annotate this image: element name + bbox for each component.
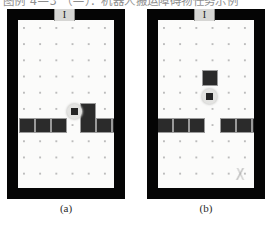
arena-wall-b: I bbox=[147, 9, 265, 199]
caption-b: (b) bbox=[147, 202, 265, 214]
robot-core-b bbox=[206, 93, 213, 100]
scan-smudge-artifact bbox=[232, 168, 248, 180]
block-a-tall bbox=[80, 103, 96, 133]
robot-a bbox=[67, 104, 82, 119]
block-b-3 bbox=[189, 118, 205, 133]
figure-container: I (a) I bbox=[0, 9, 269, 229]
panel-a: I bbox=[7, 9, 125, 199]
caption-a: (a) bbox=[7, 202, 125, 214]
robot-core-a bbox=[71, 108, 78, 115]
clipped-header-text-strip: 图例 4—3 （—）：机器人搬运障碍物任务示例 bbox=[0, 0, 269, 9]
arena-wall-a: I bbox=[7, 9, 125, 199]
block-a-5 bbox=[96, 118, 112, 133]
grid-dots-b bbox=[158, 20, 254, 188]
arena-floor-b bbox=[158, 20, 254, 188]
block-a-3 bbox=[51, 118, 67, 133]
door-notch-a: I bbox=[54, 9, 75, 21]
block-b-4 bbox=[220, 118, 236, 133]
door-notch-b: I bbox=[194, 9, 215, 21]
door-label-b: I bbox=[203, 10, 206, 20]
arena-floor-a bbox=[18, 20, 114, 188]
block-b-5 bbox=[236, 118, 252, 133]
clipped-header-text: 图例 4—3 （—）：机器人搬运障碍物任务示例 bbox=[3, 0, 269, 8]
block-a-2 bbox=[35, 118, 51, 133]
block-b-carried bbox=[202, 70, 218, 86]
block-a-6 bbox=[112, 118, 114, 133]
panel-b: I bbox=[147, 9, 265, 199]
block-b-6 bbox=[252, 118, 254, 133]
block-a-1 bbox=[19, 118, 35, 133]
robot-b bbox=[202, 89, 217, 104]
block-b-2 bbox=[173, 118, 189, 133]
door-label-a: I bbox=[63, 10, 66, 20]
block-b-1 bbox=[158, 118, 173, 133]
grid-dots-a bbox=[18, 20, 114, 188]
